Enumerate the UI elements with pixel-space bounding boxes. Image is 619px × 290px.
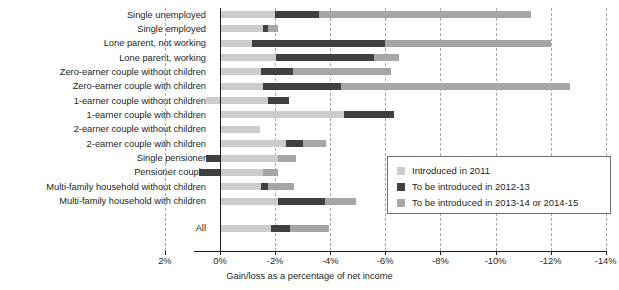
legend-swatch-icon (397, 183, 405, 191)
bar-segment (220, 198, 278, 205)
axis-tick-label: -6% (377, 256, 394, 267)
axis-tick (440, 251, 441, 255)
bar-segment (344, 111, 394, 118)
bar-segment (220, 40, 252, 47)
bar-segment (220, 54, 276, 61)
bar-row (0, 126, 619, 133)
axis-tick (496, 251, 497, 255)
axis-tick-label: -8% (432, 256, 449, 267)
bar-segment (276, 54, 374, 61)
plot-area: 2%0%-2%-4%-6%-8%-10%-12%-14% Gain/loss a… (0, 0, 619, 290)
axis-tick-label: 0% (213, 256, 226, 267)
bar-segment (220, 155, 278, 162)
bar-segment (261, 68, 293, 75)
bar-segment (252, 40, 386, 47)
bar-segment (220, 169, 263, 176)
x-axis-title: Gain/loss as a percentage of net income (0, 271, 619, 281)
bar-segment (319, 11, 531, 18)
legend-label: To be introduced in 2012-13 (412, 181, 530, 192)
chart-container: Single unemployedSingle employedLone par… (0, 0, 619, 290)
axis-tick-label: -2% (267, 256, 284, 267)
bar-segment (290, 225, 329, 232)
bar-row (0, 68, 619, 75)
bar-segment (278, 198, 325, 205)
axis-tick-label: -12% (540, 256, 562, 267)
legend-label: Introduced in 2011 (412, 165, 490, 176)
bar-row (0, 97, 619, 104)
bar-segment (374, 54, 399, 61)
axis-tick-label: -4% (322, 256, 339, 267)
bar-segment (341, 83, 570, 90)
bar-segment (325, 198, 357, 205)
bar-segment (268, 183, 294, 190)
bar-row (0, 40, 619, 47)
x-axis-line (194, 251, 607, 252)
bar-row (0, 54, 619, 61)
bar-row (0, 25, 619, 32)
bar-row (0, 111, 619, 118)
legend-item[interactable]: To be introduced in 2013-14 or 2014-15 (397, 196, 578, 209)
zero-axis-line (220, 8, 221, 251)
bar-segment (278, 155, 296, 162)
bar-segment (220, 183, 261, 190)
axis-tick (330, 251, 331, 255)
bar-row (0, 83, 619, 90)
bar-segment (303, 140, 326, 147)
bar-segment (268, 97, 289, 104)
bar-segment (263, 169, 278, 176)
bar-segment (220, 225, 271, 232)
bar-segment (206, 97, 268, 104)
legend-item[interactable]: Introduced in 2011 (397, 164, 490, 177)
bar-segment (286, 140, 303, 147)
bar-row (0, 225, 619, 232)
legend-swatch-icon (397, 199, 405, 207)
chart-legend: Introduced in 2011To be introduced in 20… (387, 156, 611, 214)
legend-label: To be introduced in 2013-14 or 2014-15 (412, 197, 578, 208)
bar-segment (268, 25, 278, 32)
legend-item[interactable]: To be introduced in 2012-13 (397, 180, 530, 193)
bar-segment (206, 155, 220, 162)
bar-segment (220, 126, 260, 133)
bar-segment (220, 140, 286, 147)
axis-tick-label: -10% (485, 256, 507, 267)
axis-tick (551, 251, 552, 255)
axis-tick (385, 251, 386, 255)
axis-tick-label: 2% (158, 256, 171, 267)
bar-segment (263, 83, 342, 90)
bar-segment (261, 183, 268, 190)
axis-tick (275, 251, 276, 255)
bar-segment (220, 11, 275, 18)
bar-row (0, 140, 619, 147)
bar-segment (220, 68, 261, 75)
bar-segment (293, 68, 391, 75)
bar-row (0, 11, 619, 18)
bar-segment (220, 25, 263, 32)
bar-segment (220, 83, 263, 90)
axis-tick (165, 251, 166, 255)
axis-tick (606, 251, 607, 255)
axis-tick (220, 251, 221, 255)
bar-segment (275, 11, 319, 18)
axis-tick-label: -14% (595, 256, 617, 267)
legend-swatch-icon (397, 167, 405, 175)
bar-segment (271, 225, 290, 232)
bar-segment (385, 40, 550, 47)
bar-segment (199, 169, 220, 176)
bar-segment (220, 111, 344, 118)
